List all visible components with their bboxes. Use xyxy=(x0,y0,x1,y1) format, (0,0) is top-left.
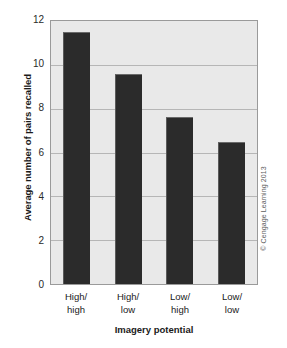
y-axis-tick-label: 2 xyxy=(38,236,44,246)
bar-chart-figure: Average number of pairs recalled 0246810… xyxy=(0,0,287,348)
y-axis-tick-label: 12 xyxy=(33,15,44,25)
x-axis-tick-label-line: High/ xyxy=(50,290,102,303)
x-axis-tick-label: Low/high xyxy=(154,290,206,316)
x-axis-tick-label-line: high xyxy=(50,303,102,316)
bar-series xyxy=(51,21,257,284)
y-axis-tick-labels: 024681012 xyxy=(26,20,48,285)
bar-slot xyxy=(51,21,103,284)
y-axis-tick-label: 6 xyxy=(38,148,44,158)
x-axis-tick-label-line: Low/ xyxy=(206,290,258,303)
x-axis-tick-label-line: low xyxy=(102,303,154,316)
bar-slot xyxy=(206,21,258,284)
plot-area xyxy=(50,20,258,285)
x-axis-tick-label-line: low xyxy=(206,303,258,316)
x-axis-tick-label: Low/low xyxy=(206,290,258,316)
x-axis-tick-label: High/high xyxy=(50,290,102,316)
x-axis-tick-label-line: high xyxy=(154,303,206,316)
bar[interactable] xyxy=(63,32,90,284)
bar[interactable] xyxy=(218,142,245,284)
attribution-text: © Cengage Learning 2013 xyxy=(260,144,267,274)
bar[interactable] xyxy=(166,117,193,284)
x-axis-tick-label-line: Low/ xyxy=(154,290,206,303)
y-axis-tick-label: 10 xyxy=(33,59,44,69)
x-axis-title: Imagery potential xyxy=(50,324,258,335)
bar[interactable] xyxy=(115,74,142,284)
y-axis-tick-label: 0 xyxy=(38,280,44,290)
x-axis-tick-label-line: High/ xyxy=(102,290,154,303)
x-axis-tick-label: High/low xyxy=(102,290,154,316)
bar-slot xyxy=(154,21,206,284)
y-axis-tick-label: 8 xyxy=(38,103,44,113)
bar-slot xyxy=(103,21,155,284)
y-axis-tick-label: 4 xyxy=(38,192,44,202)
x-axis-tick-labels: High/highHigh/lowLow/highLow/low xyxy=(50,290,258,324)
